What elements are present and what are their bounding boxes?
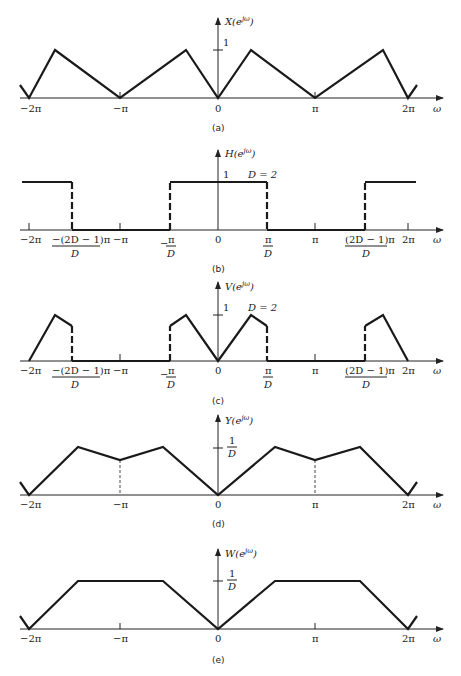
svg-text:D: D (70, 379, 79, 390)
omega-label: ω (433, 103, 441, 114)
panel-d: Y(ejω) 1 D −2π −π 0 π 2π ω (d) (20, 414, 443, 529)
svg-text:π: π (168, 234, 175, 245)
svg-text:ω: ω (433, 365, 441, 376)
tick-neg-2pi: −2π (20, 103, 42, 114)
svg-text:0: 0 (215, 633, 221, 644)
panel-a: X(ejω) 1 −2π −π 0 π 2π ω (a) (20, 15, 443, 133)
svg-text:π: π (312, 633, 319, 644)
caption-e: (e) (212, 655, 225, 665)
svg-text:π: π (168, 365, 175, 376)
y-axis-label: X(ejω) (224, 15, 254, 27)
svg-text:π: π (265, 365, 272, 376)
svg-text:π: π (312, 499, 319, 510)
svg-text:D: D (227, 448, 236, 459)
svg-text:2π: 2π (402, 633, 415, 644)
svg-text:π: π (265, 234, 272, 245)
svg-text:D: D (361, 379, 370, 390)
svg-text:(2D − 1)π: (2D − 1)π (345, 365, 395, 376)
svg-text:D: D (263, 379, 272, 390)
svg-text:2π: 2π (402, 499, 415, 510)
svg-text:−π: −π (113, 234, 128, 245)
svg-text:−π: −π (113, 499, 128, 510)
y-axis-label: W(ejω) (225, 547, 257, 559)
svg-text:ω: ω (433, 633, 441, 644)
y-axis-label: V(ejω) (225, 280, 254, 292)
y-axis-label: Y(ejω) (225, 414, 253, 426)
svg-text:0: 0 (215, 365, 221, 376)
svg-text:1: 1 (223, 302, 229, 313)
svg-text:(2D − 1)π: (2D − 1)π (345, 234, 395, 245)
svg-text:1: 1 (229, 568, 235, 579)
svg-text:D: D (263, 248, 272, 259)
svg-text:−π: −π (113, 633, 128, 644)
svg-text:π: π (312, 234, 319, 245)
tick-2pi: 2π (402, 103, 415, 114)
svg-text:−2π: −2π (20, 499, 42, 510)
decimation-spectra-figure: X(ejω) 1 −2π −π 0 π 2π ω (a) H(ejω) 1 D … (0, 0, 461, 676)
svg-text:0: 0 (215, 499, 221, 510)
svg-text:−(2D − 1)π: −(2D − 1)π (52, 365, 111, 376)
svg-text:−2π: −2π (20, 234, 42, 245)
svg-text:0: 0 (215, 234, 221, 245)
tick-pi: π (312, 103, 319, 114)
svg-text:−(2D − 1)π: −(2D − 1)π (52, 234, 111, 245)
unit-label: 1 (223, 37, 229, 48)
svg-text:−2π: −2π (20, 633, 42, 644)
svg-text:2π: 2π (402, 365, 415, 376)
panel-b: H(ejω) 1 D = 2 −2π −π 0 π 2π ω −(2D − 1)… (20, 147, 443, 274)
svg-text:D: D (166, 379, 175, 390)
svg-text:−π: −π (113, 365, 128, 376)
tick-neg-pi: −π (113, 103, 128, 114)
svg-text:−2π: −2π (20, 365, 42, 376)
svg-text:ω: ω (433, 499, 441, 510)
svg-text:D: D (166, 248, 175, 259)
param-label: D = 2 (247, 169, 277, 180)
svg-text:1: 1 (229, 435, 235, 446)
svg-text:D: D (361, 248, 370, 259)
panel-e: W(ejω) 1 D −2π −π 0 π 2π ω (e) (20, 547, 443, 665)
tick-zero: 0 (215, 103, 221, 114)
caption-c: (c) (212, 396, 224, 406)
caption-b: (b) (212, 264, 225, 274)
caption-d: (d) (212, 519, 225, 529)
svg-text:D = 2: D = 2 (247, 302, 277, 313)
svg-text:ω: ω (433, 234, 441, 245)
svg-text:D: D (227, 581, 236, 592)
svg-text:D: D (70, 248, 79, 259)
unit-label: 1 (223, 169, 229, 180)
caption-a: (a) (212, 123, 225, 133)
svg-text:π: π (312, 365, 319, 376)
y-axis-label: H(ejω) (224, 147, 255, 159)
svg-text:2π: 2π (402, 234, 415, 245)
panel-c: V(ejω) 1 D = 2 −2π −π 0 π 2π ω −(2D − 1)… (20, 280, 443, 406)
